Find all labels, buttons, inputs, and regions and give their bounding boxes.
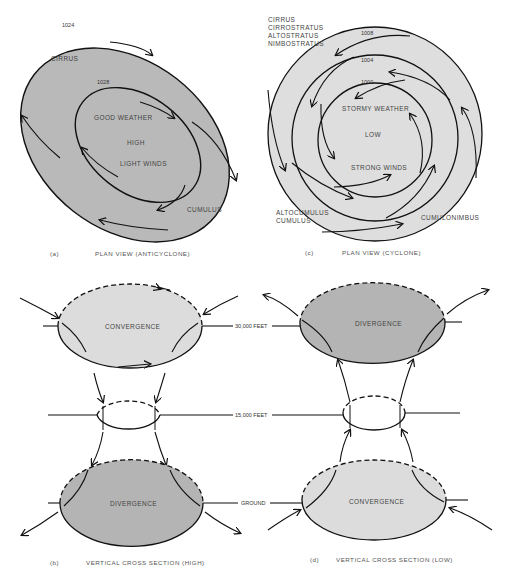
bottom-label-divergence: DIVERGENCE — [110, 500, 157, 507]
cloud-label: ALTOSTRATUS — [268, 32, 319, 39]
level-label-ground: GROUND — [241, 500, 265, 506]
isobar-label: 1004 — [361, 57, 373, 63]
panel-caption: PLAN VIEW (ANTICYCLONE) — [95, 250, 190, 257]
level-label-30000: 30,000 FEET — [235, 323, 268, 329]
panel-c-cyclone: 1008 1004 1000 CIRRUS CIRROSTRATUS ALTOS… — [268, 16, 482, 256]
panel-a-anticyclone: 1024 1028 CIRRUS GOOD WEATHER HIGH LIGHT… — [0, 8, 267, 282]
wind-arrow-icon — [264, 295, 298, 316]
panel-caption: VERTICAL CROSS SECTION (HIGH) — [86, 559, 205, 566]
isobar-label: 1000 — [361, 79, 373, 85]
panel-caption: PLAN VIEW (CYCLONE) — [342, 249, 421, 256]
cloud-label-cumulus: CUMULUS — [187, 206, 222, 213]
weather-systems-figure: 1024 1028 CIRRUS GOOD WEATHER HIGH LIGHT… — [0, 0, 506, 581]
panel-d-low: DIVERGENCE CONVERGENCE (d) VERTICAL CROS… — [264, 283, 492, 563]
wind-arrow-icon — [402, 430, 413, 462]
isobar-label: 1028 — [97, 79, 109, 85]
inner-isobar-1000 — [318, 83, 432, 197]
wind-arrow-icon — [155, 432, 166, 465]
panel-caption: VERTICAL CROSS SECTION (LOW) — [336, 556, 453, 563]
wind-arrow-icon — [338, 360, 350, 402]
cloud-label: CIRROSTRATUS — [268, 24, 324, 31]
wind-arrow-icon — [205, 512, 240, 533]
cloud-label: CUMULONIMBUS — [421, 214, 480, 221]
level-label-15000: 15,000 FEET — [235, 412, 268, 418]
wind-arrow-icon — [156, 373, 165, 402]
cloud-label: ALTOCUMULUS — [276, 209, 329, 216]
wind-arrow-icon — [92, 432, 103, 465]
isobar-label: 1008 — [361, 30, 373, 36]
wind-arrow-icon — [22, 512, 58, 535]
weather-label: STORMY WEATHER — [342, 105, 409, 112]
wind-arrow-icon — [20, 298, 58, 318]
center-label: LOW — [365, 131, 381, 138]
panel-letter: (d) — [310, 556, 319, 563]
winds-label: LIGHT WINDS — [120, 160, 167, 167]
top-label-convergence: CONVERGENCE — [105, 323, 161, 330]
wind-arrow-icon — [447, 290, 488, 314]
center-label: HIGH — [127, 139, 145, 146]
top-label-divergence: DIVERGENCE — [355, 320, 402, 327]
bottom-label-convergence: CONVERGENCE — [349, 498, 405, 505]
wind-arrow-icon — [400, 360, 413, 402]
cloud-label: NIMBOSTRATUS — [268, 40, 324, 47]
panel-letter: (c) — [305, 249, 314, 256]
cloud-label-cirrus: CIRRUS — [51, 55, 79, 62]
wind-arrow-icon — [94, 373, 103, 402]
weather-label: GOOD WEATHER — [94, 114, 153, 121]
wind-arrow-icon — [204, 296, 238, 314]
cloud-label: CIRRUS — [268, 16, 296, 23]
wind-arrow-icon — [340, 430, 350, 462]
wind-arrow-icon — [268, 510, 300, 530]
panel-letter: (b) — [50, 559, 59, 566]
cloud-label: CUMULUS — [276, 217, 311, 224]
winds-label: STRONG WINDS — [351, 164, 407, 171]
isobar-label: 1024 — [62, 22, 74, 28]
panel-letter: (a) — [50, 250, 59, 257]
wind-arrow-icon — [450, 508, 492, 530]
